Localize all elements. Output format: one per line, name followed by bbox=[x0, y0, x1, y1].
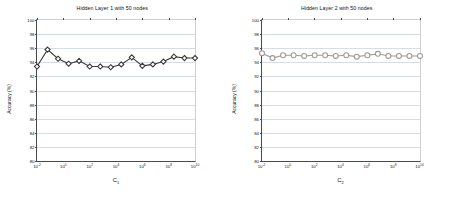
data-point-marker bbox=[87, 64, 92, 69]
data-point-marker bbox=[280, 53, 285, 58]
y-axis-tick-label: 100 bbox=[252, 18, 259, 23]
x-axis-tick-mark bbox=[90, 18, 91, 20]
data-point-marker bbox=[171, 54, 176, 59]
x-axis-tick-label: 102 bbox=[311, 164, 318, 169]
y-axis-tick-mark bbox=[35, 105, 37, 106]
x-axis-tick-mark bbox=[367, 18, 368, 20]
data-point-marker bbox=[385, 53, 390, 58]
data-point-marker bbox=[192, 56, 197, 61]
x-axis-tick-label: 1010 bbox=[415, 164, 423, 169]
data-point-marker bbox=[333, 53, 338, 58]
x-axis-tick-label: 104 bbox=[337, 164, 344, 169]
y-axis-tick-label: 86 bbox=[30, 116, 35, 121]
y-axis-tick-mark bbox=[260, 147, 262, 148]
data-point-marker bbox=[291, 53, 296, 58]
data-point-marker bbox=[34, 64, 39, 69]
y-axis-tick-label: 92 bbox=[254, 74, 259, 79]
y-axis-tick-label: 98 bbox=[30, 32, 35, 37]
data-point-marker bbox=[364, 53, 369, 58]
x-axis-tick-mark bbox=[142, 18, 143, 20]
y-axis-tick-label: 96 bbox=[30, 46, 35, 51]
y-axis-tick-label: 96 bbox=[254, 46, 259, 51]
data-point-marker bbox=[396, 53, 401, 58]
y-axis-tick-mark bbox=[35, 91, 37, 92]
y-axis-tick-label: 86 bbox=[254, 116, 259, 121]
x-axis-tick-mark bbox=[262, 18, 263, 20]
x-axis-tick-mark bbox=[341, 18, 342, 20]
y-axis-tick-label: 88 bbox=[254, 102, 259, 107]
data-point-marker bbox=[182, 56, 187, 61]
x-axis-tick-label: 100 bbox=[60, 164, 67, 169]
x-axis-tick-label: 10-2 bbox=[258, 164, 266, 169]
x-axis-tick-mark bbox=[169, 18, 170, 20]
series-left bbox=[37, 20, 195, 161]
x-axis-tick-mark bbox=[288, 18, 289, 20]
data-point-marker bbox=[108, 65, 113, 70]
y-axis-tick-mark bbox=[35, 161, 37, 162]
y-axis-tick-mark bbox=[35, 76, 37, 77]
series-right bbox=[262, 20, 420, 161]
y-axis-tick-mark bbox=[260, 91, 262, 92]
y-axis-label-right: Accuracy (%) bbox=[231, 84, 237, 114]
y-axis-tick-mark bbox=[260, 161, 262, 162]
y-axis-tick-label: 84 bbox=[254, 130, 259, 135]
y-axis-label-left: Accuracy (%) bbox=[6, 84, 12, 114]
x-axis-tick-label: 104 bbox=[113, 164, 120, 169]
y-axis-tick-label: 94 bbox=[254, 60, 259, 65]
data-point-marker bbox=[375, 51, 380, 56]
y-axis-tick-mark bbox=[35, 48, 37, 49]
y-axis-tick-mark bbox=[260, 34, 262, 35]
x-axis-tick-label: 106 bbox=[364, 164, 371, 169]
chart-panel-left: Hidden Layer 1 with 50 nodes 80828486889… bbox=[0, 0, 225, 198]
data-point-marker bbox=[322, 53, 327, 58]
y-axis-tick-mark bbox=[35, 34, 37, 35]
data-point-marker bbox=[406, 53, 411, 58]
y-axis-tick-label: 94 bbox=[30, 60, 35, 65]
y-axis-tick-mark bbox=[35, 20, 37, 21]
x-axis-tick-mark bbox=[314, 18, 315, 20]
data-point-marker bbox=[354, 54, 359, 59]
x-axis-tick-label: 100 bbox=[285, 164, 292, 169]
data-point-marker bbox=[259, 51, 264, 56]
x-axis-tick-label: 102 bbox=[86, 164, 93, 169]
y-axis-tick-label: 100 bbox=[27, 18, 34, 23]
y-axis-tick-mark bbox=[35, 62, 37, 63]
x-axis-tick-mark bbox=[116, 18, 117, 20]
y-axis-tick-mark bbox=[260, 76, 262, 77]
y-axis-tick-label: 92 bbox=[30, 74, 35, 79]
x-axis-tick-mark bbox=[195, 18, 196, 20]
x-axis-tick-label: 108 bbox=[390, 164, 397, 169]
data-point-marker bbox=[312, 53, 317, 58]
y-axis-tick-label: 82 bbox=[254, 144, 259, 149]
x-axis-label-right-sub: 2 bbox=[342, 180, 344, 185]
x-axis-tick-label: 108 bbox=[165, 164, 172, 169]
x-axis-label-right: C2 bbox=[261, 177, 421, 183]
data-point-marker bbox=[301, 53, 306, 58]
data-point-marker bbox=[77, 58, 82, 63]
y-axis-tick-label: 88 bbox=[30, 102, 35, 107]
y-axis-tick-mark bbox=[260, 133, 262, 134]
chart-title-left: Hidden Layer 1 with 50 nodes bbox=[0, 5, 225, 11]
data-point-marker bbox=[161, 59, 166, 64]
data-point-marker bbox=[343, 53, 348, 58]
data-point-marker bbox=[417, 53, 422, 58]
figure-two-panel-accuracy: Hidden Layer 1 with 50 nodes 80828486889… bbox=[0, 0, 449, 198]
chart-panel-right: Hidden Layer 2 with 50 nodes 80828486889… bbox=[225, 0, 449, 198]
y-axis-tick-mark bbox=[260, 48, 262, 49]
x-axis-label-left: C1 bbox=[36, 177, 196, 183]
y-axis-tick-mark bbox=[35, 119, 37, 120]
data-point-marker bbox=[66, 61, 71, 66]
x-axis-tick-label: 10-2 bbox=[33, 164, 41, 169]
x-axis-tick-mark bbox=[393, 18, 394, 20]
x-axis-tick-label: 106 bbox=[139, 164, 146, 169]
y-axis-tick-mark bbox=[260, 105, 262, 106]
data-point-marker bbox=[98, 64, 103, 69]
y-axis-tick-mark bbox=[35, 147, 37, 148]
data-point-marker bbox=[270, 56, 275, 61]
y-axis-tick-mark bbox=[260, 62, 262, 63]
y-axis-tick-label: 84 bbox=[30, 130, 35, 135]
y-axis-tick-mark bbox=[35, 133, 37, 134]
y-axis-tick-mark bbox=[260, 119, 262, 120]
y-axis-tick-label: 90 bbox=[30, 88, 35, 93]
x-axis-label-left-sub: 1 bbox=[117, 180, 119, 185]
